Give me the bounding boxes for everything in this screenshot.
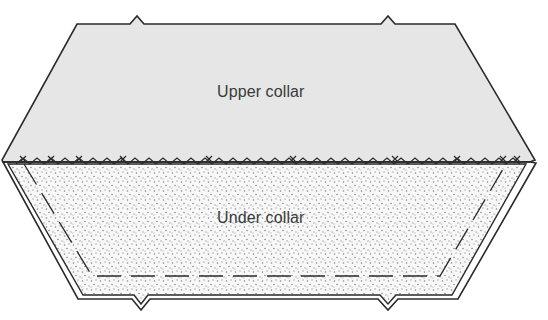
under-collar-shape <box>8 164 526 304</box>
upper-collar-label: Upper collar <box>217 83 304 101</box>
collar-diagram <box>0 0 548 320</box>
under-collar-piece <box>3 162 536 310</box>
under-collar-label: Under collar <box>217 209 304 227</box>
